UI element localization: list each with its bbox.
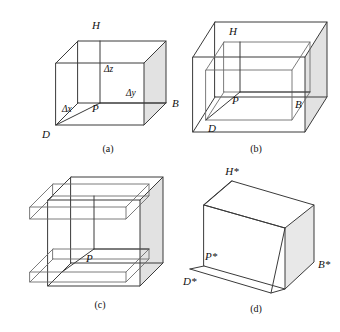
panel-b-label-H: H bbox=[228, 25, 238, 37]
figure-canvas: H B D P Δz Δy Δx (a) bbox=[0, 0, 340, 332]
panel-b-inner-back-face bbox=[224, 42, 310, 92]
panel-d-label-B-star: B* bbox=[318, 258, 331, 270]
panel-a-shaded-face bbox=[144, 41, 166, 125]
panel-c: P (c) bbox=[30, 177, 163, 311]
panel-b-inner-front-face bbox=[206, 70, 292, 120]
panel-a-caption: (a) bbox=[102, 143, 113, 155]
panel-c-base-connector-bl bbox=[30, 259, 53, 282]
panel-a-label-P: P bbox=[91, 102, 99, 114]
panel-b-label-D: D bbox=[207, 122, 216, 134]
panel-c-base-slab-back bbox=[53, 249, 149, 259]
panel-d-label-H-star: H* bbox=[224, 165, 239, 177]
figure-root: H B D P Δz Δy Δx (a) bbox=[0, 0, 340, 332]
panel-d-caption: (d) bbox=[250, 303, 262, 315]
panel-a-label-delta-x: Δx bbox=[61, 104, 73, 114]
panel-b-connector-tl bbox=[193, 22, 215, 57]
panel-a: H B D P Δz Δy Δx (a) bbox=[41, 19, 179, 155]
panel-d-base bbox=[190, 269, 285, 293]
panel-b-front-face bbox=[193, 57, 305, 132]
panel-d-shaded-face bbox=[285, 205, 314, 289]
panel-a-label-delta-y: Δy bbox=[125, 88, 137, 98]
panel-d: H* B* D* P* (d) bbox=[182, 165, 331, 315]
panel-b-caption: (b) bbox=[250, 143, 262, 155]
panel-a-label-delta-z: Δz bbox=[103, 64, 114, 74]
panel-a-label-D: D bbox=[41, 128, 50, 140]
panel-a-connector-top-left bbox=[56, 41, 78, 63]
panel-b-label-P: P bbox=[231, 94, 239, 106]
panel-d-base-rise bbox=[271, 228, 285, 293]
panel-c-base-slab-front bbox=[30, 272, 126, 282]
panel-c-shaded-face bbox=[140, 177, 163, 286]
panel-c-inner-back-face bbox=[53, 184, 149, 196]
panel-b-label-B: B bbox=[295, 98, 302, 110]
panel-d-left-edge bbox=[204, 181, 232, 205]
panel-c-label-P: P bbox=[85, 252, 93, 264]
panel-d-base-left bbox=[190, 266, 204, 269]
panel-c-connector-bl bbox=[48, 263, 71, 286]
panel-c-connector-tl bbox=[48, 177, 71, 200]
panel-c-inner-connector-tl bbox=[30, 184, 53, 207]
panel-a-label-H: H bbox=[91, 19, 101, 31]
panel-d-label-P-star: P* bbox=[204, 250, 218, 262]
panel-a-label-B: B bbox=[172, 97, 179, 109]
panel-d-label-D-star: D* bbox=[182, 275, 197, 287]
panel-c-inner-front-face bbox=[30, 207, 126, 219]
panel-b: H B D P (b) bbox=[193, 22, 327, 155]
panel-c-caption: (c) bbox=[94, 299, 105, 311]
panel-b-shaded-face bbox=[305, 22, 327, 132]
panel-c-inner-connector-bl bbox=[30, 196, 53, 219]
panel-c-base-connector-l bbox=[30, 249, 53, 272]
